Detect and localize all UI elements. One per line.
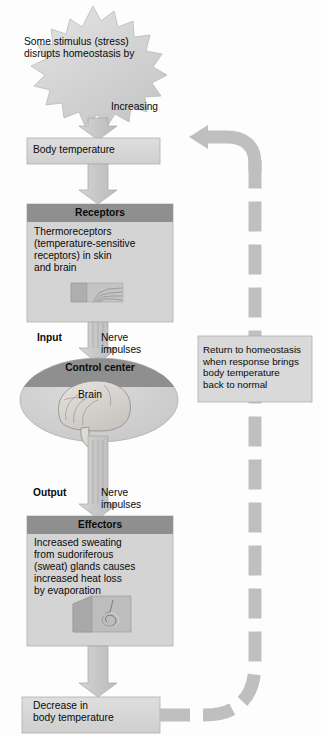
return-feedback-arrow	[160, 160, 255, 715]
input-label: Input	[37, 332, 62, 344]
receptors-title: Receptors	[27, 207, 173, 219]
decrease-label: Decrease in body temperature	[33, 700, 153, 724]
effectors-body-text: Increased sweating from sudoriferous (sw…	[34, 537, 176, 597]
return-arrow-head	[189, 125, 255, 172]
input-nerve-impulses-label: Nerve impulses	[101, 332, 161, 356]
output-label: Output	[33, 487, 66, 499]
arrow-effectors-to-decrease	[79, 646, 117, 697]
stimulus-text: Some stimulus (stress) disrupts homeosta…	[24, 36, 160, 60]
sweat-gland-illustration	[73, 596, 131, 632]
body-temperature-label: Body temperature	[33, 144, 155, 156]
brain-label: Brain	[78, 389, 102, 401]
diagram-canvas: Some stimulus (stress) disrupts homeosta…	[0, 0, 321, 736]
increasing-label: Increasing	[111, 101, 158, 113]
effectors-title: Effectors	[27, 519, 173, 531]
control-center-title: Control center	[26, 362, 174, 374]
arrow-body-temperature-to-receptors	[79, 164, 117, 204]
output-nerve-impulses-label: Nerve impulses	[101, 487, 161, 511]
skin-thermoreceptor-illustration	[71, 283, 123, 302]
return-note-text: Return to homeostasis when response brin…	[203, 344, 311, 390]
receptors-body-text: Thermoreceptors (temperature-sensitive r…	[34, 226, 174, 274]
